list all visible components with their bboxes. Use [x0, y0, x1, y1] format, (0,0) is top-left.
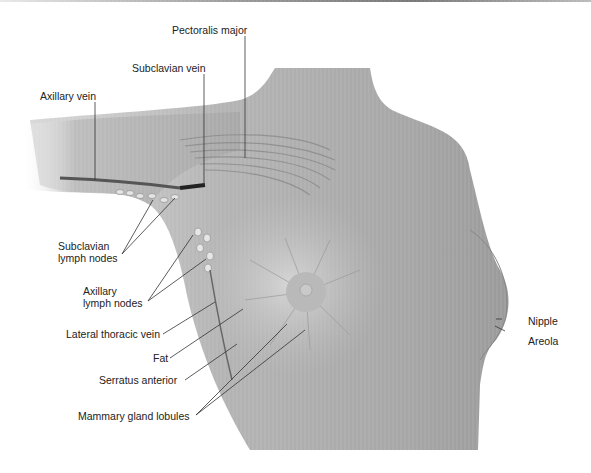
label-pectoralis-major: Pectoralis major — [172, 24, 247, 36]
label-areola: Areola — [528, 335, 558, 347]
label-serratus-anterior: Serratus anterior — [99, 374, 177, 386]
label-subclavian-lymph-nodes: Subclavian lymph nodes — [58, 240, 118, 264]
label-subclavian-lymph-nodes-line2: lymph nodes — [58, 252, 118, 264]
label-lateral-thoracic-vein: Lateral thoracic vein — [66, 328, 160, 340]
anatomy-illustration — [0, 0, 591, 473]
label-axillary-vein: Axillary vein — [40, 90, 96, 102]
label-axillary-lymph-nodes-line1: Axillary — [83, 285, 143, 297]
label-mammary-gland-lobules: Mammary gland lobules — [78, 410, 189, 422]
label-fat: Fat — [153, 352, 168, 364]
label-subclavian-vein: Subclavian vein — [132, 62, 206, 74]
nipple-front — [300, 284, 312, 296]
label-subclavian-lymph-nodes-line1: Subclavian — [58, 240, 118, 252]
label-nipple: Nipple — [528, 315, 558, 327]
label-axillary-lymph-nodes-line2: lymph nodes — [83, 297, 143, 309]
label-axillary-lymph-nodes: Axillary lymph nodes — [83, 285, 143, 309]
